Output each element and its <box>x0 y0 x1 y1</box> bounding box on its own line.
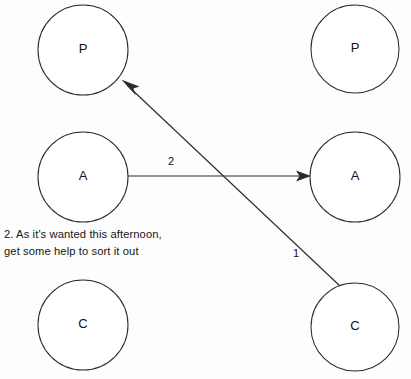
node-label-left-child: C <box>78 316 87 331</box>
caption-note: 2. As it's wanted this afternoon, get so… <box>4 226 219 259</box>
node-right-parent[interactable]: P <box>311 5 399 93</box>
node-right-adult[interactable]: A <box>310 132 400 222</box>
caption-note-line-2: get some help to sort it out <box>4 243 219 260</box>
node-label-right-adult: A <box>351 168 360 183</box>
node-label-right-child: C <box>350 318 359 333</box>
node-right-child[interactable]: C <box>311 283 399 371</box>
node-left-child[interactable]: C <box>38 280 128 370</box>
caption-note-line-1: 2. As it's wanted this afternoon, <box>4 226 219 243</box>
diagram-svg: P A C P A C 2 <box>0 0 411 379</box>
node-label-right-parent: P <box>351 40 360 55</box>
node-left-parent[interactable]: P <box>38 5 128 95</box>
edge-transaction-2[interactable]: 2 <box>128 155 311 182</box>
edge-label-1: 1 <box>293 247 299 259</box>
edge-label-2: 2 <box>168 155 174 167</box>
node-label-left-adult: A <box>79 168 88 183</box>
arrow-head-icon <box>122 80 140 96</box>
node-label-left-parent: P <box>79 41 88 56</box>
node-left-adult[interactable]: A <box>38 132 128 222</box>
diagram-canvas: P A C P A C 2 <box>0 0 411 379</box>
